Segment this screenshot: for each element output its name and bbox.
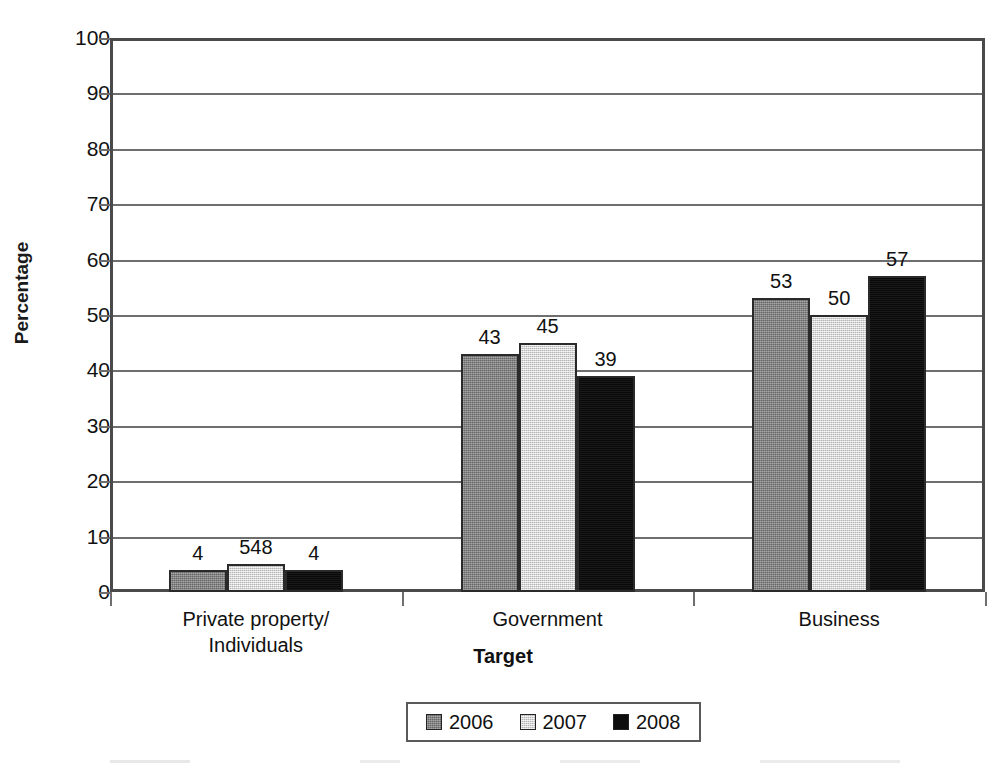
gridline-70 [113,204,982,206]
y-tick-mark-10 [99,537,110,539]
legend-item-2008[interactable]: 2008 [613,712,681,732]
gridline-30 [113,426,982,428]
y-axis-ticks: 1009080706050403020100 [26,38,110,592]
y-tick-mark-80 [99,149,110,151]
plot-area [110,38,985,592]
gridline-20 [113,481,982,483]
dark-gray-swatch [426,714,442,730]
y-tick-mark-70 [99,204,110,206]
y-tick-mark-30 [99,426,110,428]
y-tick-mark-60 [99,260,110,262]
x-category-label-line: Government [402,606,694,632]
x-category-label-2: Business [693,606,985,632]
scan-artifact [0,760,1006,763]
gridline-100 [113,38,982,41]
x-tick-mark-2 [693,592,695,606]
black-swatch [613,714,629,730]
x-category-label-line: Private property/ [110,606,402,632]
y-tick-mark-100 [99,38,110,40]
y-tick-mark-50 [99,315,110,317]
gridline-60 [113,260,982,262]
legend-item-2007[interactable]: 2007 [520,712,588,732]
light-gray-swatch [520,714,536,730]
x-tick-mark-3 [985,592,987,606]
y-tick-mark-20 [99,481,110,483]
gridline-90 [113,93,982,95]
legend-label: 2006 [449,712,494,732]
chart-legend: 200620072008 [406,702,701,742]
y-tick-mark-40 [99,370,110,372]
legend-item-2006[interactable]: 2006 [426,712,494,732]
x-category-label-line: Business [693,606,985,632]
x-tick-mark-0 [110,592,112,606]
gridline-10 [113,537,982,539]
x-tick-mark-1 [402,592,404,606]
bar-chart: Percentage 1009080706050403020100 443535… [0,0,1006,768]
gridline-50 [113,315,982,317]
x-category-label-1: Government [402,606,694,632]
legend-label: 2007 [543,712,588,732]
gridline-80 [113,149,982,151]
legend-label: 2008 [636,712,681,732]
y-tick-mark-0 [99,592,110,594]
y-tick-mark-90 [99,93,110,95]
gridline-40 [113,370,982,372]
x-axis-title: Target [0,645,1006,668]
